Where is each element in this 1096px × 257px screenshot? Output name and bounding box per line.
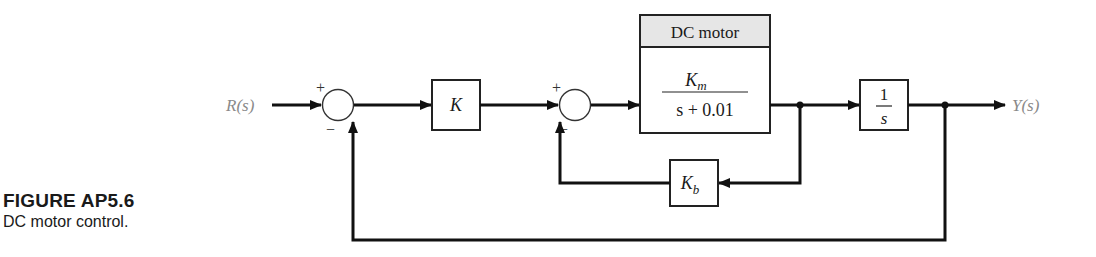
summing-junction-1: [323, 90, 354, 121]
dc-motor-header-label: DC motor: [671, 23, 740, 42]
motor-denominator: s + 0.01: [676, 100, 734, 120]
summing-junction-2: [560, 90, 591, 121]
integrator-block: 1 s: [860, 80, 908, 130]
integrator-denominator: s: [881, 109, 888, 128]
dc-motor-block: DC motor Km s + 0.01: [640, 15, 770, 133]
integrator-numerator: 1: [880, 85, 889, 104]
figure-description: DC motor control.: [3, 212, 135, 232]
block-diagram: R(s) + − K + − DC motor Km s + 0.01 1 s …: [0, 0, 1096, 257]
figure-title: FIGURE AP5.6: [3, 190, 135, 212]
sum1-minus-sign: −: [326, 121, 335, 138]
output-signal-label: Y(s): [1012, 96, 1040, 115]
sum2-plus-sign: +: [552, 79, 561, 96]
figure-caption: FIGURE AP5.6 DC motor control.: [3, 190, 135, 232]
input-signal-label: R(s): [225, 96, 255, 115]
back-emf-block: Kb: [670, 160, 718, 206]
gain-label: K: [449, 95, 463, 115]
sum1-plus-sign: +: [316, 79, 325, 96]
